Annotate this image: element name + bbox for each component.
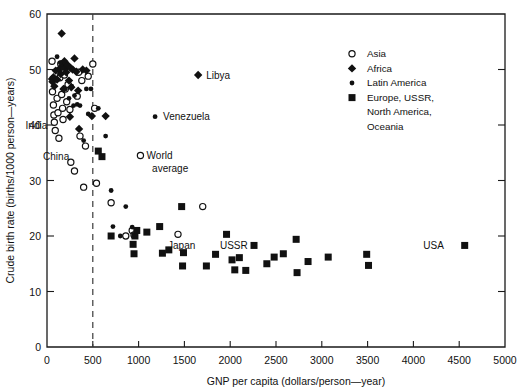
data-point — [67, 96, 72, 101]
data-point — [294, 269, 301, 276]
legend-label-1: Africa — [367, 63, 393, 74]
y-tick-label: 60 — [29, 8, 41, 20]
data-point — [63, 87, 68, 92]
data-point — [179, 262, 186, 269]
data-point — [82, 143, 88, 149]
data-point — [59, 105, 65, 111]
data-point — [103, 134, 108, 139]
axes: 0500100015002000250030003500400045005000… — [29, 8, 517, 366]
data-point — [231, 266, 238, 273]
data-point — [251, 242, 258, 249]
scatter-chart-figure: 0500100015002000250030003500400045005000… — [0, 0, 518, 391]
data-point — [236, 254, 243, 261]
data-point — [66, 112, 74, 120]
data-point — [194, 71, 202, 79]
data-point — [178, 203, 185, 210]
data-point — [305, 258, 312, 265]
y-tick-label: 10 — [29, 286, 41, 298]
data-point — [263, 260, 270, 267]
data-point — [60, 66, 65, 71]
data-point — [223, 231, 230, 238]
data-point — [51, 119, 57, 125]
data-point — [133, 227, 140, 234]
x-tick-label: 2500 — [264, 354, 288, 366]
data-point — [325, 254, 332, 261]
data-point — [96, 106, 101, 111]
annotation-label: Libya — [206, 70, 230, 81]
data-point — [72, 93, 77, 98]
annotation-label: World — [147, 150, 173, 161]
data-point — [79, 78, 85, 84]
data-point — [363, 251, 370, 258]
data-point — [101, 112, 109, 120]
annotation-label: average — [152, 163, 189, 174]
series-europe — [95, 148, 468, 277]
data-point — [130, 241, 137, 248]
y-tick-label: 50 — [29, 64, 41, 76]
data-point — [108, 233, 115, 240]
data-point — [60, 116, 66, 122]
data-point — [84, 87, 89, 92]
data-point — [156, 223, 163, 230]
data-point — [89, 87, 94, 92]
data-point — [70, 54, 78, 62]
x-tick-label: 4500 — [448, 354, 472, 366]
data-point — [143, 229, 150, 236]
annotation-label: Japan — [168, 240, 195, 251]
x-tick-label: 1500 — [173, 354, 197, 366]
legend-label-0: Asia — [367, 48, 387, 59]
y-tick-label: 0 — [35, 341, 41, 353]
data-point — [78, 103, 83, 108]
data-points — [48, 29, 468, 276]
x-tick-label: 2000 — [219, 354, 243, 366]
data-point — [271, 254, 278, 261]
data-point — [137, 152, 143, 158]
data-point — [123, 233, 129, 239]
legend-marker-1 — [348, 64, 356, 72]
data-point — [159, 250, 166, 257]
data-point — [212, 251, 219, 258]
data-point — [81, 138, 86, 143]
data-point — [153, 114, 158, 119]
data-point — [280, 250, 287, 257]
data-point — [461, 242, 468, 249]
plot-frame — [47, 14, 505, 347]
annotation-label: India — [26, 120, 48, 131]
legend-label-2: Latin America — [367, 77, 427, 88]
data-point — [118, 234, 123, 239]
y-tick-label: 20 — [29, 230, 41, 242]
data-point — [50, 102, 56, 108]
data-point — [77, 133, 83, 139]
x-tick-label: 3000 — [310, 354, 334, 366]
annotation-label: China — [43, 151, 70, 162]
chart-legend: AsiaAfricaLatin AmericaEurope, USSR,Nort… — [348, 48, 434, 132]
data-point — [57, 29, 65, 37]
y-axis-title: Crude birth rate (births/1000 person—yea… — [4, 77, 16, 283]
data-point — [75, 125, 83, 133]
legend-label-5: Oceania — [367, 121, 404, 132]
legend-marker-2 — [350, 81, 355, 86]
legend-label-4: North America, — [367, 106, 432, 117]
data-point — [229, 256, 236, 263]
annotation-label: Venezuela — [163, 111, 210, 122]
data-point — [58, 60, 63, 65]
x-tick-label: 3500 — [356, 354, 380, 366]
data-point — [93, 180, 99, 186]
data-point — [90, 61, 96, 67]
data-point — [49, 58, 55, 64]
data-point — [81, 184, 87, 190]
data-point — [55, 54, 60, 59]
x-tick-label: 5000 — [493, 354, 517, 366]
x-tick-label: 500 — [84, 354, 102, 366]
data-point — [69, 84, 74, 89]
legend-label-3: Europe, USSR, — [367, 92, 434, 103]
legend-marker-0 — [349, 51, 355, 57]
data-point — [123, 204, 128, 209]
chart-canvas: 0500100015002000250030003500400045005000… — [0, 0, 518, 391]
x-tick-label: 1000 — [127, 354, 151, 366]
legend-marker-3 — [349, 94, 356, 101]
data-point — [200, 203, 206, 209]
data-point — [293, 236, 300, 243]
x-axis-title: GNP per capita (dollars/person—year) — [207, 375, 385, 387]
annotation-label: USSR — [220, 240, 248, 251]
